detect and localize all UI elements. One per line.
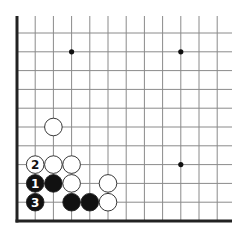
move-number-label: 1 [31, 177, 39, 191]
white-stone-icon [99, 175, 117, 193]
black-stone [81, 193, 99, 211]
white-stone [45, 118, 63, 136]
white-stone [63, 175, 81, 193]
go-board: 213 [0, 0, 248, 232]
white-stone-icon [99, 193, 117, 211]
white-stone [63, 156, 81, 174]
move-number-label: 3 [31, 196, 39, 210]
black-stone-icon [81, 193, 99, 211]
white-stone-icon [63, 156, 81, 174]
star-point-icon [178, 162, 183, 167]
white-stone-icon [63, 175, 81, 193]
white-stone [99, 175, 117, 193]
black-stone: 1 [26, 175, 44, 193]
move-number-label: 2 [31, 158, 39, 172]
white-stone [99, 193, 117, 211]
black-stone-icon [63, 193, 81, 211]
board-edges [16, 16, 233, 223]
white-stone-icon [45, 118, 63, 136]
white-stone: 2 [26, 156, 44, 174]
black-stone: 3 [26, 193, 44, 211]
black-stone-icon [45, 175, 63, 193]
white-stone-icon [45, 156, 63, 174]
black-stone [63, 193, 81, 211]
star-point-icon [69, 49, 74, 54]
black-stone [45, 175, 63, 193]
star-point-icon [178, 49, 183, 54]
white-stone [45, 156, 63, 174]
